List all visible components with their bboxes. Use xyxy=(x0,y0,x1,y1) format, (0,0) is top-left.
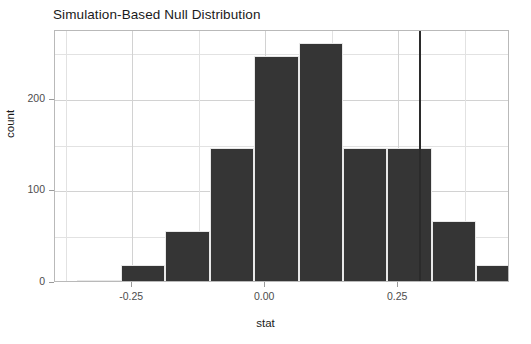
y-tick-label: 0 xyxy=(0,275,45,287)
x-tick-mark xyxy=(264,282,265,287)
y-tick-mark xyxy=(49,282,54,283)
histogram-bar xyxy=(387,148,432,282)
histogram-bar xyxy=(77,280,121,282)
histogram-bar xyxy=(432,221,476,282)
observed-stat-line-icon xyxy=(419,31,420,281)
chart-title: Simulation-Based Null Distribution xyxy=(53,7,261,22)
histogram-bar xyxy=(210,148,254,282)
y-tick-label: 100 xyxy=(0,183,45,195)
x-axis-title: stat xyxy=(0,317,531,329)
x-tick-mark xyxy=(131,282,132,287)
x-tick-label: -0.25 xyxy=(101,290,161,302)
x-tick-mark xyxy=(397,282,398,287)
histogram-bar xyxy=(165,231,210,282)
gridline-vertical xyxy=(66,31,67,281)
gridline-vertical xyxy=(132,31,133,281)
histogram-bar xyxy=(121,265,165,282)
histogram-bar xyxy=(343,148,387,282)
histogram-bar xyxy=(476,265,509,282)
histogram-bar xyxy=(299,43,343,282)
x-tick-label: 0.25 xyxy=(367,290,427,302)
plot-panel xyxy=(54,30,509,282)
chart-figure: Simulation-Based Null Distribution count… xyxy=(0,0,531,344)
histogram-bar xyxy=(254,56,299,282)
x-tick-label: 0.00 xyxy=(234,290,294,302)
y-tick-label: 200 xyxy=(0,92,45,104)
y-axis-title: count xyxy=(4,110,16,138)
